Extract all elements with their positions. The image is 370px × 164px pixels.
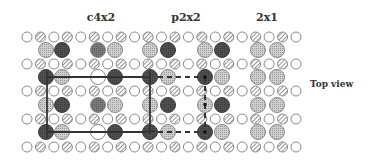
hatched-substrate-atom bbox=[224, 114, 234, 124]
open-substrate-atom bbox=[103, 59, 113, 69]
open-substrate-atom bbox=[49, 86, 59, 96]
dark-adatom bbox=[161, 98, 176, 113]
light-adatom bbox=[39, 43, 54, 58]
light-adatom bbox=[39, 98, 54, 113]
hatched-substrate-atom bbox=[224, 142, 234, 152]
hatched-substrate-atom bbox=[143, 114, 153, 124]
hatched-substrate-atom bbox=[278, 59, 288, 69]
open-substrate-atom bbox=[49, 114, 59, 124]
open-substrate-atom bbox=[157, 114, 167, 124]
light-adatom bbox=[108, 98, 123, 113]
open-substrate-atom bbox=[76, 114, 86, 124]
open-substrate-atom bbox=[22, 86, 32, 96]
open-substrate-atom bbox=[264, 86, 274, 96]
open-substrate-atom bbox=[103, 32, 113, 42]
light-adatom bbox=[215, 125, 230, 140]
hatched-substrate-atom bbox=[170, 114, 180, 124]
hatched-substrate-atom bbox=[251, 32, 261, 42]
hatched-substrate-atom bbox=[251, 59, 261, 69]
open-substrate-atom bbox=[210, 142, 220, 152]
open-substrate-atom bbox=[130, 142, 140, 152]
title-2x1: 2x1 bbox=[256, 11, 278, 24]
open-substrate-atom bbox=[130, 86, 140, 96]
dark-medium-adatom bbox=[91, 98, 106, 113]
open-substrate-atom bbox=[22, 114, 32, 124]
open-substrate-atom bbox=[291, 86, 301, 96]
open-substrate-atom bbox=[130, 32, 140, 42]
open-substrate-atom bbox=[157, 142, 167, 152]
open-substrate-atom bbox=[264, 142, 274, 152]
lattice-point-marker bbox=[204, 76, 207, 79]
hatched-substrate-atom bbox=[143, 59, 153, 69]
hatched-substrate-atom bbox=[116, 86, 126, 96]
open-substrate-atom bbox=[130, 114, 140, 124]
hatched-substrate-atom bbox=[35, 86, 45, 96]
lattice-point-marker bbox=[204, 131, 207, 134]
hatched-substrate-atom bbox=[251, 142, 261, 152]
hatched-substrate-atom bbox=[170, 86, 180, 96]
hatched-substrate-atom bbox=[197, 32, 207, 42]
hatched-substrate-atom bbox=[116, 114, 126, 124]
open-substrate-atom bbox=[291, 32, 301, 42]
open-substrate-atom bbox=[264, 32, 274, 42]
hatched-substrate-atom bbox=[224, 86, 234, 96]
open-substrate-atom bbox=[22, 59, 32, 69]
light-adatom bbox=[251, 70, 266, 85]
open-substrate-atom bbox=[130, 59, 140, 69]
hatched-substrate-atom bbox=[224, 59, 234, 69]
open-substrate-atom bbox=[291, 114, 301, 124]
hatched-substrate-atom bbox=[89, 114, 99, 124]
hatched-substrate-atom bbox=[89, 32, 99, 42]
open-substrate-atom bbox=[76, 142, 86, 152]
open-substrate-atom bbox=[103, 86, 113, 96]
hatched-substrate-atom bbox=[35, 114, 45, 124]
open-substrate-atom bbox=[76, 59, 86, 69]
open-substrate-atom bbox=[183, 142, 193, 152]
hatched-substrate-atom bbox=[197, 142, 207, 152]
open-substrate-atom bbox=[237, 142, 247, 152]
dark-adatom bbox=[55, 98, 70, 113]
hatched-substrate-atom bbox=[224, 32, 234, 42]
open-substrate-atom bbox=[210, 32, 220, 42]
hatched-substrate-atom bbox=[116, 59, 126, 69]
open-substrate-atom bbox=[183, 86, 193, 96]
light-adatom bbox=[108, 43, 123, 58]
hatched-substrate-atom bbox=[116, 32, 126, 42]
hatched-substrate-atom bbox=[62, 86, 72, 96]
hatched-substrate-atom bbox=[89, 142, 99, 152]
dark-adatom bbox=[161, 43, 176, 58]
open-substrate-atom bbox=[237, 59, 247, 69]
open-substrate-atom bbox=[103, 142, 113, 152]
open-substrate-atom bbox=[264, 114, 274, 124]
light-adatom bbox=[270, 98, 285, 113]
light-adatom bbox=[251, 98, 266, 113]
unit-cell-outlines bbox=[47, 71, 207, 138]
hatched-substrate-atom bbox=[62, 114, 72, 124]
light-adatom bbox=[251, 125, 266, 140]
hatched-substrate-atom bbox=[197, 59, 207, 69]
hatched-substrate-atom bbox=[143, 86, 153, 96]
open-substrate-atom bbox=[22, 32, 32, 42]
hatched-substrate-atom bbox=[278, 86, 288, 96]
open-substrate-atom bbox=[210, 86, 220, 96]
hatched-substrate-atom bbox=[143, 142, 153, 152]
light-adatom bbox=[270, 70, 285, 85]
lattice-point-marker bbox=[204, 103, 207, 106]
hatched-substrate-atom bbox=[278, 142, 288, 152]
open-substrate-atom bbox=[183, 114, 193, 124]
hatched-substrate-atom bbox=[170, 142, 180, 152]
dark-adatom bbox=[215, 98, 230, 113]
open-substrate-atom bbox=[49, 32, 59, 42]
hatched-substrate-atom bbox=[35, 142, 45, 152]
hatched-substrate-atom bbox=[89, 86, 99, 96]
light-adatom bbox=[270, 125, 285, 140]
dark-adatom bbox=[215, 43, 230, 58]
hatched-substrate-atom bbox=[251, 86, 261, 96]
light-adatom bbox=[251, 43, 266, 58]
hatched-substrate-atom bbox=[116, 142, 126, 152]
hatched-substrate-atom bbox=[251, 114, 261, 124]
open-substrate-atom bbox=[49, 59, 59, 69]
open-substrate-atom bbox=[183, 32, 193, 42]
top-view-label: Top view bbox=[310, 79, 353, 89]
open-substrate-atom bbox=[237, 86, 247, 96]
